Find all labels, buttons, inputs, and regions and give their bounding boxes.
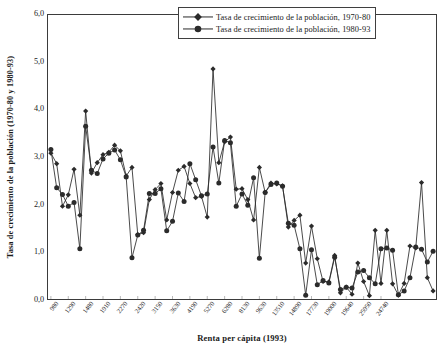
- x-tick-label: 4190: [185, 300, 198, 314]
- circle-marker-icon: [183, 23, 213, 35]
- data-lines: [48, 15, 436, 299]
- legend-label-1980-93: Tasa de crecimiento de la población, 198…: [213, 25, 370, 34]
- x-axis-title: Renta per cápita (1993): [47, 333, 437, 343]
- y-tick-label: 0,0: [22, 296, 44, 304]
- y-tick-label: 6,0: [22, 10, 44, 18]
- diamond-marker-icon: [183, 11, 213, 23]
- x-tick-label: 8130: [237, 300, 250, 314]
- x-tick-label: 2420: [133, 300, 146, 314]
- x-tick-label: 5270: [202, 300, 215, 314]
- y-tick-label: 1,0: [22, 248, 44, 256]
- plot-area: [47, 14, 437, 300]
- x-tick-label: 13510: [270, 300, 285, 317]
- x-tick-label: 9630: [254, 300, 267, 314]
- legend-label-1970-80: Tasa de crecimiento de la población, 197…: [213, 13, 370, 22]
- chart-legend: Tasa de crecimiento de la población, 197…: [178, 7, 376, 39]
- y-axis-tick-labels: 6,05,04,03,02,01,00,0: [19, 0, 44, 354]
- y-tick-label: 3,0: [22, 153, 44, 161]
- x-tick-label: 17730: [305, 300, 320, 317]
- x-tick-label: 19640: [339, 300, 354, 317]
- x-tick-label: 14890: [287, 300, 302, 317]
- x-tick-label: 1290: [63, 300, 76, 314]
- y-tick-label: 5,0: [22, 58, 44, 66]
- x-tick-label: 3630: [168, 300, 181, 314]
- x-tick-label: 980: [48, 300, 59, 312]
- x-tick-label: 1480: [81, 300, 94, 314]
- x-tick-label: 19000: [322, 300, 337, 317]
- y-axis-title: Tasa de crecimiento de la población (197…: [2, 14, 18, 300]
- x-tick-label: 25950: [357, 300, 372, 317]
- x-axis-tick-labels: 9801290148019102270242031503630419052706…: [47, 300, 437, 332]
- legend-item-1980-93: Tasa de crecimiento de la población, 198…: [183, 23, 370, 35]
- y-axis-title-text: Tasa de crecimiento de la población (197…: [6, 56, 15, 258]
- x-tick-label: 6280: [220, 300, 233, 314]
- y-tick-label: 4,0: [22, 105, 44, 113]
- x-tick-label: 2270: [115, 300, 128, 314]
- x-tick-label: 24740: [374, 300, 389, 317]
- legend-item-1970-80: Tasa de crecimiento de la población, 197…: [183, 11, 370, 23]
- x-tick-label: 3150: [150, 300, 163, 314]
- y-tick-label: 2,0: [22, 201, 44, 209]
- population-growth-chart: Tasa de crecimiento de la población (197…: [0, 0, 448, 354]
- x-tick-label: 1910: [98, 300, 111, 314]
